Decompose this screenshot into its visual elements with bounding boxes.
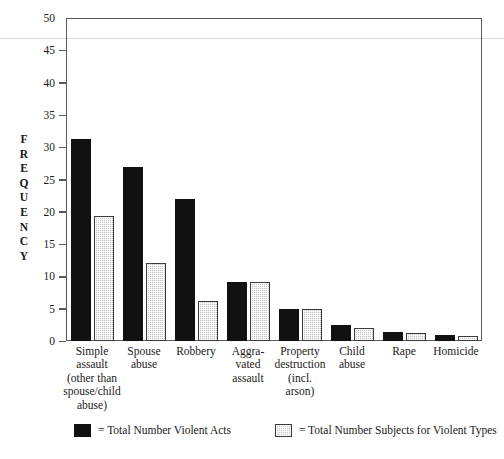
y-axis-title-letter: Y bbox=[14, 249, 34, 264]
y-axis-title-letter: F bbox=[14, 132, 34, 147]
y-axis-title-letter: Q bbox=[14, 176, 34, 191]
bar bbox=[175, 199, 195, 341]
legend-item-violent-acts: = Total Number Violent Acts bbox=[74, 424, 231, 437]
y-tick-20: 20 bbox=[44, 205, 67, 219]
bar-group bbox=[378, 18, 430, 341]
y-tick-label: 50 bbox=[44, 11, 60, 25]
bar bbox=[123, 167, 143, 341]
legend-label-violent-subjects: = Total Number Subjects for Violent Type… bbox=[299, 424, 497, 436]
bar bbox=[227, 282, 247, 341]
legend-swatch-dark bbox=[74, 424, 91, 437]
y-tick-40: 40 bbox=[44, 76, 67, 90]
y-tick-45: 45 bbox=[44, 43, 67, 57]
y-tick-mark bbox=[59, 211, 66, 213]
y-tick-mark bbox=[59, 179, 66, 181]
y-tick-label: 35 bbox=[44, 108, 60, 122]
y-tick-label: 25 bbox=[44, 173, 60, 187]
y-axis-title-letter: U bbox=[14, 190, 34, 205]
y-tick-15: 15 bbox=[44, 237, 67, 251]
y-axis-title-letter: E bbox=[14, 205, 34, 220]
bar-group bbox=[170, 18, 222, 341]
bar bbox=[94, 216, 114, 341]
y-axis-title: FREQUENCY bbox=[14, 132, 34, 263]
y-tick-label: 5 bbox=[49, 302, 59, 316]
bar bbox=[331, 325, 351, 341]
y-tick-mark bbox=[59, 276, 66, 278]
bar-group bbox=[118, 18, 170, 341]
bar bbox=[198, 301, 218, 341]
x-axis-label: Homicide bbox=[414, 345, 497, 358]
legend-label-violent-acts: = Total Number Violent Acts bbox=[98, 424, 231, 436]
y-tick-label: 20 bbox=[44, 205, 60, 219]
bar-group bbox=[66, 18, 118, 341]
y-tick-10: 10 bbox=[44, 269, 67, 283]
bar bbox=[458, 336, 478, 341]
y-tick-label: 10 bbox=[44, 269, 60, 283]
bar bbox=[302, 309, 322, 341]
y-tick-mark bbox=[59, 341, 66, 343]
y-axis-title-letter: N bbox=[14, 220, 34, 235]
y-tick-mark bbox=[59, 115, 66, 117]
bar bbox=[146, 263, 166, 341]
chart-legend: = Total Number Violent Acts = Total Numb… bbox=[66, 419, 482, 441]
bar-group bbox=[430, 18, 482, 341]
y-tick-mark bbox=[59, 244, 66, 246]
y-axis-title-letter: R bbox=[14, 147, 34, 162]
bar-chart-figure: 05101520253035404550 FREQUENCY Simple as… bbox=[0, 0, 504, 459]
bar bbox=[250, 282, 270, 341]
bar bbox=[279, 309, 299, 341]
bar bbox=[354, 328, 374, 341]
bar bbox=[383, 332, 403, 341]
legend-item-violent-subjects: = Total Number Subjects for Violent Type… bbox=[275, 424, 497, 437]
bar bbox=[71, 139, 91, 341]
y-tick-mark bbox=[59, 50, 66, 52]
y-tick-mark bbox=[59, 308, 66, 310]
y-tick-label: 45 bbox=[44, 43, 60, 57]
bar bbox=[406, 333, 426, 341]
y-axis-title-letter: C bbox=[14, 234, 34, 249]
bar bbox=[435, 335, 455, 341]
y-tick-mark-spacer bbox=[59, 18, 66, 20]
bar-group bbox=[222, 18, 274, 341]
y-axis-title-letter: E bbox=[14, 161, 34, 176]
y-tick-mark bbox=[59, 82, 66, 84]
bar-group bbox=[326, 18, 378, 341]
y-tick-label: 15 bbox=[44, 237, 60, 251]
legend-swatch-light bbox=[275, 424, 292, 437]
y-tick-mark bbox=[59, 147, 66, 149]
y-tick-25: 25 bbox=[44, 173, 67, 187]
y-tick-35: 35 bbox=[44, 108, 67, 122]
x-axis-category-labels: Simple assault (other than spouse/child … bbox=[66, 345, 482, 415]
bar-group bbox=[274, 18, 326, 341]
y-tick-label: 30 bbox=[44, 140, 60, 154]
y-tick-50: 50 bbox=[44, 11, 67, 25]
y-tick-label: 40 bbox=[44, 76, 60, 90]
y-tick-5: 5 bbox=[49, 302, 66, 316]
bars-layer bbox=[66, 18, 482, 341]
y-tick-30: 30 bbox=[44, 140, 67, 154]
